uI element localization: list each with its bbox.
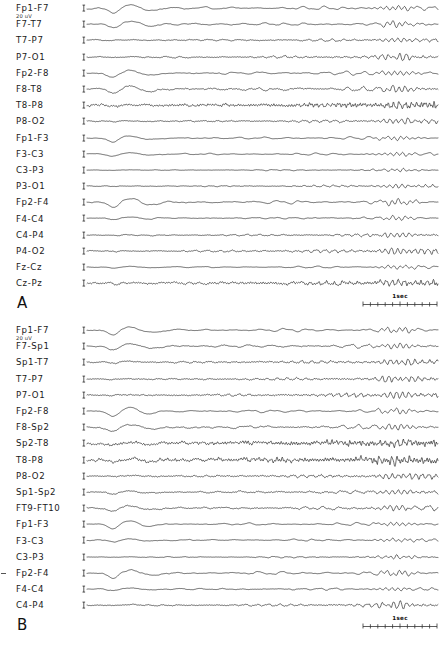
eeg-trace	[82, 210, 441, 226]
channel-label-fp2-f4: Fp2-F4	[16, 568, 49, 578]
amplitude-calibration-mark	[83, 473, 86, 479]
eeg-channel-row: C3-P3	[0, 162, 443, 178]
eeg-waveform	[87, 85, 438, 93]
eeg-waveform	[87, 455, 438, 466]
eeg-waveform	[87, 168, 438, 172]
channel-label-fp2-f8: Fp2-F8	[16, 68, 49, 78]
eeg-channel-row: P8-O2	[0, 113, 443, 129]
channel-label-p8-o2: P8-O2	[16, 471, 45, 481]
eeg-waveform	[87, 136, 438, 142]
eeg-trace	[82, 500, 441, 516]
eeg-waveform	[87, 38, 438, 42]
eeg-waveform	[87, 5, 438, 14]
amplitude-calibration-mark	[83, 118, 86, 124]
amplitude-calibration-mark	[83, 376, 86, 382]
eeg-channel-row: T7-P7	[0, 32, 443, 48]
eeg-trace	[82, 275, 441, 291]
eeg-waveform	[87, 265, 438, 269]
panel-a-channel-rows: Fp1-F7F7-T7T7-P7P7-O1Fp2-F8F8-T8T8-P8P8-…	[0, 0, 443, 291]
channel-label-p3-o1: P3-O1	[16, 181, 45, 191]
amplitude-calibration-mark	[83, 183, 86, 189]
channel-label-f7-sp1: F7-Sp1	[16, 341, 50, 351]
panel-b-letter: B	[17, 616, 27, 634]
channel-label-t8-p8: T8-P8	[16, 100, 43, 110]
eeg-trace	[82, 581, 441, 597]
eeg-trace	[82, 113, 441, 129]
amplitude-calibration-mark	[83, 521, 86, 527]
eeg-channel-row: T8-P8	[0, 97, 443, 113]
eeg-trace	[82, 371, 441, 387]
eeg-trace	[82, 178, 441, 194]
panel-a-timescale-ruler	[362, 300, 438, 307]
amplitude-calibration-mark	[83, 570, 86, 576]
eeg-waveform	[87, 424, 438, 431]
eeg-waveform	[87, 248, 438, 254]
channel-label-f3-c3: F3-C3	[16, 149, 44, 159]
eeg-trace	[82, 16, 441, 32]
eeg-channel-row: Fz-Cz	[0, 259, 443, 275]
channel-label-cz-pz: Cz-Pz	[16, 278, 42, 288]
channel-label-ft9-ft10: FT9-FT10	[16, 503, 60, 513]
eeg-channel-row: F3-C3	[0, 532, 443, 548]
amplitude-calibration-mark	[83, 264, 86, 270]
eeg-channel-row: Sp1-Sp2	[0, 484, 443, 500]
amplitude-calibration-mark	[83, 135, 86, 141]
eeg-waveform	[87, 375, 438, 381]
panel-b-channel-rows: Fp1-F7F7-Sp1Sp1-T7T7-P7P7-O1Fp2-F8F8-Sp2…	[0, 322, 443, 613]
eeg-channel-row: Fp1-F7	[0, 0, 443, 16]
eeg-channel-row: T8-P8	[0, 452, 443, 468]
eeg-waveform	[87, 199, 438, 208]
amplitude-calibration-mark	[83, 54, 86, 60]
eeg-trace	[82, 452, 441, 468]
eeg-channel-row: C4-P4	[0, 227, 443, 243]
panel-b-timescale-ruler	[362, 622, 438, 629]
eeg-waveform	[87, 118, 438, 124]
channel-label-sp2-t8: Sp2-T8	[16, 438, 49, 448]
eeg-channel-row: FT9-FT10	[0, 500, 443, 516]
eeg-channel-row: F7-Sp1	[0, 338, 443, 354]
eeg-trace	[82, 81, 441, 97]
amplitude-calibration-mark	[83, 602, 86, 608]
amplitude-calibration-mark	[83, 554, 86, 560]
panel-a-timescale: 1sec	[362, 293, 438, 307]
eeg-channel-row: Fp2-F4	[0, 194, 443, 210]
eeg-waveform	[87, 439, 438, 448]
eeg-channel-row: Fp2-F4	[0, 565, 443, 581]
eeg-channel-row: Sp1-T7	[0, 354, 443, 370]
channel-label-fp1-f3: Fp1-F3	[16, 519, 49, 529]
eeg-channel-row: P7-O1	[0, 387, 443, 403]
eeg-waveform	[87, 70, 438, 77]
eeg-trace	[82, 387, 441, 403]
eeg-channel-row: Sp2-T8	[0, 435, 443, 451]
channel-label-fp1-f7: Fp1-F7	[16, 325, 49, 335]
eeg-channel-row: Cz-Pz	[0, 275, 443, 291]
channel-label-t7-p7: T7-P7	[16, 374, 43, 384]
amplitude-calibration-mark	[83, 359, 86, 365]
eeg-channel-row: Fp1-F3	[0, 130, 443, 146]
eeg-trace	[82, 32, 441, 48]
channel-label-fz-cz: Fz-Cz	[16, 262, 42, 272]
eeg-trace	[82, 435, 441, 451]
eeg-trace	[82, 162, 441, 178]
channel-label-fp2-f4: Fp2-F4	[16, 197, 49, 207]
eeg-trace	[82, 597, 441, 613]
eeg-trace	[82, 259, 441, 275]
eeg-channel-row: C3-P3	[0, 549, 443, 565]
channel-label-f8-sp2: F8-Sp2	[16, 422, 50, 432]
channel-label-f4-c4: F4-C4	[16, 214, 44, 224]
panel-a-timescale-label: 1sec	[362, 293, 438, 299]
amplitude-calibration-mark	[83, 248, 86, 254]
eeg-trace	[82, 243, 441, 259]
amplitude-calibration-mark	[83, 408, 86, 414]
channel-label-f7-t7: F7-T7	[16, 19, 42, 29]
eeg-waveform	[87, 392, 438, 399]
channel-label-f8-t8: F8-T8	[16, 84, 42, 94]
eeg-waveform	[87, 184, 438, 188]
eeg-waveform	[87, 279, 438, 286]
amplitude-calibration-mark	[83, 199, 86, 205]
eeg-waveform	[87, 407, 438, 416]
channel-label-t7-p7: T7-P7	[16, 35, 43, 45]
panel-b-edge-marker	[1, 573, 6, 574]
eeg-channel-row: F4-C4	[0, 210, 443, 226]
eeg-channel-row: Fp1-F7	[0, 322, 443, 338]
